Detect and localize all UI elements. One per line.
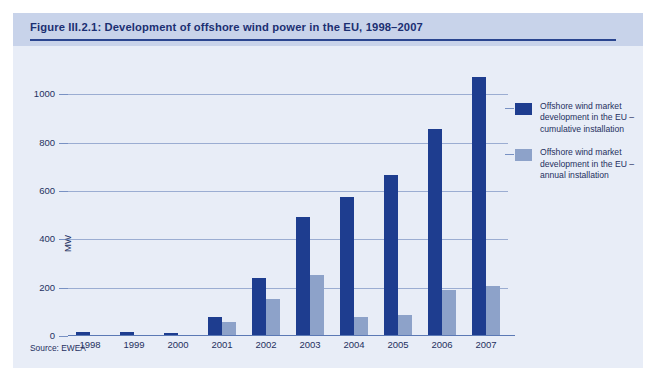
legend-connector-line: [505, 108, 514, 109]
y-axis-tick-label: 600: [9, 185, 55, 196]
gridline: [68, 239, 508, 240]
y-axis-tick-label: 1000: [9, 88, 55, 99]
legend-label-cumulative: Offshore wind market development in the …: [540, 101, 641, 135]
bar-annual-2006: [442, 290, 456, 336]
title-divider: [30, 39, 616, 41]
bar-cumulative-2001: [208, 317, 222, 336]
x-axis-line: [68, 335, 515, 336]
y-axis-tick-mark: [59, 336, 68, 337]
gridline: [68, 143, 508, 144]
y-axis-tick-label: 800: [9, 137, 55, 148]
legend-swatch-annual: [515, 149, 532, 161]
x-axis-tick-label: 2004: [332, 339, 376, 350]
y-axis-tick-mark: [59, 191, 68, 192]
bar-annual-2002: [266, 299, 280, 336]
bar-cumulative-2007: [472, 77, 486, 336]
x-axis-tick-label: 2002: [244, 339, 288, 350]
bar-cumulative-2005: [384, 175, 398, 336]
gridline: [68, 191, 508, 192]
y-axis-tick-mark: [59, 94, 68, 95]
bar-annual-2005: [398, 315, 412, 336]
gridline: [68, 288, 508, 289]
y-axis-label: MW: [62, 235, 73, 252]
gridline: [68, 94, 508, 95]
legend-label-annual: Offshore wind market development in the …: [540, 147, 641, 181]
bar-cumulative-2004: [340, 197, 354, 336]
y-axis-tick-label: 400: [9, 233, 55, 244]
y-axis-tick-label: 200: [9, 282, 55, 293]
chart-plot-area: MW 02004006008001000 1998199920002001200…: [68, 70, 508, 336]
x-axis-tick-label: 2001: [200, 339, 244, 350]
legend-connector-line: [505, 154, 514, 155]
bar-annual-2004: [354, 317, 368, 336]
x-axis-tick-label: 2003: [288, 339, 332, 350]
x-axis-tick-label: 2005: [376, 339, 420, 350]
page-title: Figure III.2.1: Development of offshore …: [30, 21, 423, 33]
bar-annual-2007: [486, 286, 500, 336]
bar-annual-2003: [310, 275, 324, 336]
y-axis-tick-label: 0: [9, 330, 55, 341]
legend-swatch-cumulative: [515, 103, 532, 115]
x-axis-tick-label: 2006: [420, 339, 464, 350]
bar-cumulative-2006: [428, 129, 442, 336]
chart-legend: Offshore wind market development in the …: [515, 101, 641, 193]
figure-panel: Figure III.2.1: Development of offshore …: [13, 13, 643, 368]
legend-item-annual: Offshore wind market development in the …: [515, 147, 641, 181]
bar-cumulative-2002: [252, 278, 266, 336]
y-axis-tick-mark: [59, 288, 68, 289]
bar-cumulative-2003: [296, 217, 310, 336]
x-axis-tick-label: 1999: [112, 339, 156, 350]
y-axis-tick-mark: [59, 143, 68, 144]
source-note: Source: EWEA: [30, 343, 86, 353]
x-axis-tick-label: 2000: [156, 339, 200, 350]
legend-item-cumulative: Offshore wind market development in the …: [515, 101, 641, 135]
y-axis-tick-mark: [59, 239, 68, 240]
x-axis-tick-label: 2007: [464, 339, 508, 350]
